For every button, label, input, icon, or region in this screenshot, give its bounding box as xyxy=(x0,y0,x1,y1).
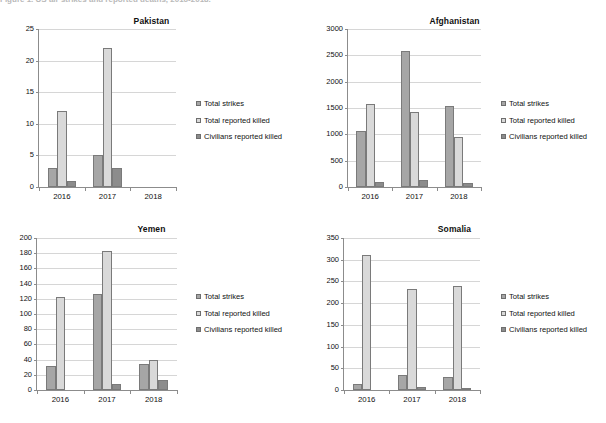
bar-somalia-2017-total-strikes xyxy=(398,375,407,390)
legend-item-civilians-reported-killed[interactable]: Civilians reported killed xyxy=(196,326,282,334)
legend-item-total-strikes[interactable]: Total strikes xyxy=(501,293,587,301)
chart-panel-pakistan: Pakistan0510152025201620172018Total stri… xyxy=(0,7,303,215)
y-axis-label: 3000 xyxy=(326,25,343,33)
plot-area-somalia: 050100150200250300350201620172018 xyxy=(343,238,480,391)
legend-somalia: Total strikesTotal reported killedCivili… xyxy=(501,293,587,343)
bars-container xyxy=(344,238,480,390)
legend-item-label: Total reported killed xyxy=(204,117,270,125)
legend-swatch-icon xyxy=(196,311,201,316)
bar-pakistan-2017-total-strikes xyxy=(93,155,102,187)
y-axis-label: 1500 xyxy=(326,104,343,112)
bar-pakistan-2017-total-reported-killed xyxy=(103,48,112,187)
legend-item-label: Civilians reported killed xyxy=(204,326,282,334)
bar-afghanistan-2018-total-reported-killed xyxy=(454,137,463,187)
bar-somalia-2018-civilians-reported-killed xyxy=(462,388,471,390)
chart-title-pakistan: Pakistan xyxy=(0,16,303,26)
y-axis-label: 2000 xyxy=(326,78,343,86)
x-axis-tick xyxy=(437,187,438,191)
y-axis-label: 120 xyxy=(19,295,32,303)
chart-panel-yemen: Yemen02040608010012014016018020020162017… xyxy=(0,215,303,423)
bar-afghanistan-2017-total-reported-killed xyxy=(410,112,419,187)
legend-item-label: Civilians reported killed xyxy=(509,133,587,141)
legend-item-total-reported-killed[interactable]: Total reported killed xyxy=(196,310,282,318)
legend-item-total-strikes[interactable]: Total strikes xyxy=(501,100,587,108)
bar-afghanistan-2017-civilians-reported-killed xyxy=(419,180,428,187)
bars-container xyxy=(348,29,481,187)
y-axis-label: 5 xyxy=(30,152,34,160)
y-axis-label: 80 xyxy=(24,325,32,333)
x-axis-tick xyxy=(481,187,482,191)
x-axis-label-2018: 2018 xyxy=(130,395,177,404)
legend-item-total-reported-killed[interactable]: Total reported killed xyxy=(196,117,282,125)
bar-afghanistan-2017-total-strikes xyxy=(401,51,410,187)
chart-title-somalia: Somalia xyxy=(303,224,606,234)
bar-pakistan-2017-civilians-reported-killed xyxy=(112,168,121,187)
chart-title-afghanistan: Afghanistan xyxy=(303,16,606,26)
legend-item-label: Total reported killed xyxy=(509,117,575,125)
clipped-figure-header-text: Figure 1. US air strikes and reported de… xyxy=(0,0,211,3)
y-axis-label: 160 xyxy=(19,265,32,273)
legend-item-total-strikes[interactable]: Total strikes xyxy=(196,100,282,108)
bar-somalia-2018-total-strikes xyxy=(443,377,452,390)
legend-swatch-icon xyxy=(501,311,506,316)
plot-area-pakistan: 0510152025201620172018 xyxy=(38,29,176,188)
bar-yemen-2018-total-strikes xyxy=(139,364,149,390)
legend-item-label: Total strikes xyxy=(204,293,244,301)
y-axis-label: 0 xyxy=(335,386,339,394)
y-axis-label: 350 xyxy=(326,234,339,242)
y-axis-label: 100 xyxy=(326,343,339,351)
legend-yemen: Total strikesTotal reported killedCivili… xyxy=(196,293,282,343)
y-axis-label: 300 xyxy=(326,256,339,264)
y-axis-label: 500 xyxy=(330,157,343,165)
bar-pakistan-2016-total-strikes xyxy=(48,168,57,187)
legend-swatch-icon xyxy=(501,327,506,332)
chart-panel-afghanistan: Afghanistan05001000150020002500300020162… xyxy=(303,7,606,215)
legend-swatch-icon xyxy=(196,294,201,299)
chart-panel-somalia: Somalia050100150200250300350201620172018… xyxy=(303,215,606,423)
y-axis-label: 200 xyxy=(326,299,339,307)
bars-container xyxy=(39,29,176,187)
bar-yemen-2017-civilians-reported-killed xyxy=(112,384,122,390)
plot-area-yemen: 020406080100120140160180200201620172018 xyxy=(36,238,177,391)
legend-item-label: Civilians reported killed xyxy=(509,326,587,334)
legend-swatch-icon xyxy=(501,294,506,299)
x-axis-label-2017: 2017 xyxy=(85,192,131,201)
legend-item-total-strikes[interactable]: Total strikes xyxy=(196,293,282,301)
chart-title-yemen: Yemen xyxy=(0,224,303,234)
clipped-figure-header: Figure 1. US air strikes and reported de… xyxy=(0,0,606,7)
x-axis-label-2017: 2017 xyxy=(84,395,131,404)
legend-pakistan: Total strikesTotal reported killedCivili… xyxy=(196,100,282,150)
bars-container xyxy=(37,238,177,390)
legend-item-civilians-reported-killed[interactable]: Civilians reported killed xyxy=(501,133,587,141)
legend-swatch-icon xyxy=(501,134,506,139)
y-axis-label: 0 xyxy=(28,386,32,394)
plot-area-afghanistan: 050010001500200025003000201620172018 xyxy=(347,29,481,188)
y-axis-label: 60 xyxy=(24,341,32,349)
bar-afghanistan-2016-total-strikes xyxy=(356,131,365,187)
x-axis-label-2018: 2018 xyxy=(435,395,480,404)
x-axis-tick xyxy=(176,187,177,191)
y-axis-label: 50 xyxy=(331,365,339,373)
legend-item-label: Civilians reported killed xyxy=(204,133,282,141)
legend-item-total-reported-killed[interactable]: Total reported killed xyxy=(501,310,587,318)
x-axis-tick xyxy=(177,390,178,394)
y-axis-label: 0 xyxy=(339,183,343,191)
y-axis-label: 1000 xyxy=(326,131,343,139)
y-axis-label: 180 xyxy=(19,249,32,257)
bar-yemen-2017-total-strikes xyxy=(93,294,103,390)
legend-item-civilians-reported-killed[interactable]: Civilians reported killed xyxy=(501,326,587,334)
x-axis-tick xyxy=(39,187,40,191)
bar-somalia-2016-total-strikes xyxy=(353,384,362,391)
x-axis-tick xyxy=(37,390,38,394)
chart-grid: Pakistan0510152025201620172018Total stri… xyxy=(0,7,606,423)
x-axis-tick xyxy=(130,187,131,191)
y-axis-label: 20 xyxy=(26,57,34,65)
bar-afghanistan-2016-total-reported-killed xyxy=(366,104,375,187)
legend-item-label: Total reported killed xyxy=(204,310,270,318)
y-axis-label: 15 xyxy=(26,88,34,96)
x-axis-tick xyxy=(480,390,481,394)
bar-pakistan-2016-civilians-reported-killed xyxy=(67,181,76,187)
bar-somalia-2018-total-reported-killed xyxy=(453,286,462,390)
legend-item-civilians-reported-killed[interactable]: Civilians reported killed xyxy=(196,133,282,141)
legend-item-total-reported-killed[interactable]: Total reported killed xyxy=(501,117,587,125)
